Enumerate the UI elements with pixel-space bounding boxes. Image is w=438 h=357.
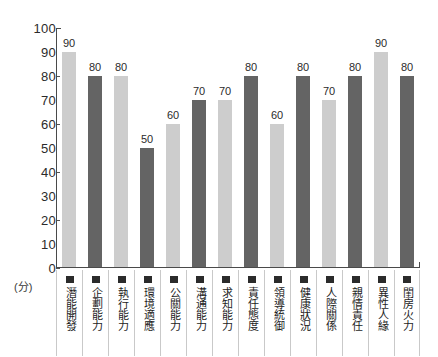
y-tick-label-30: 30 [22,190,56,203]
square-marker-icon [326,276,334,283]
bar-value-label: 70 [219,86,231,97]
bar[interactable] [88,76,102,267]
bar[interactable] [322,100,336,267]
category-label-text: 閨房火力 [401,287,413,331]
square-marker-icon [378,276,386,283]
y-tick-label-40: 40 [22,166,56,179]
category-label: 人際關係 [316,270,342,356]
bar-value-label: 90 [63,38,75,49]
bar-value-label: 80 [297,62,309,73]
category-label-text: 領導統御 [272,287,284,331]
category-label-text: 環境適應 [142,287,154,331]
bar-value-label: 60 [167,110,179,121]
bar[interactable] [140,148,154,268]
bar-value-label: 80 [115,62,127,73]
bar[interactable] [218,100,232,267]
category-label: 求知能力 [212,270,238,356]
bar-value-label: 60 [271,110,283,121]
bar[interactable] [244,76,258,267]
bar-chart: 1009080706050403020100 (分) 9080805060707… [0,0,438,357]
bar[interactable] [348,76,362,267]
category-label-text: 親情責任 [350,287,362,331]
y-tick-label-20: 20 [22,214,56,227]
bar[interactable] [270,124,284,267]
category-label-text: 求知能力 [220,287,232,331]
y-axis-unit-label: (分) [14,278,32,294]
category-label-text: 異性人緣 [376,287,388,331]
square-marker-icon [300,276,308,283]
category-label-text: 公關能力 [168,287,180,331]
bar[interactable] [114,76,128,267]
y-axis: 1009080706050403020100 [14,24,56,272]
square-marker-icon [248,276,256,283]
square-marker-icon [222,276,230,283]
bar-slot: 80 [238,28,264,267]
category-label-text: 企劃能力 [90,287,102,331]
bar-slot: 60 [160,28,186,267]
plot-area: 9080805060707080608070809080 [56,28,420,268]
bar[interactable] [296,76,310,267]
bar-slot: 80 [82,28,108,267]
bar-slot: 70 [212,28,238,267]
category-label: 潛能開發 [56,270,82,356]
square-marker-icon [66,276,74,283]
square-marker-icon [403,276,411,283]
category-label-text: 責任態度 [246,287,258,331]
category-label: 親情責任 [342,270,368,356]
bar[interactable] [400,76,414,267]
y-tick-label-50: 50 [22,142,56,155]
square-marker-icon [92,276,100,283]
bar-value-label: 80 [245,62,257,73]
category-label: 執行能力 [108,270,134,356]
bar-slot: 70 [186,28,212,267]
bar-slot: 70 [316,28,342,267]
y-tick-label-0: 0 [22,262,56,275]
bar-slot: 50 [134,28,160,267]
square-marker-icon [196,276,204,283]
category-label: 公關能力 [160,270,186,356]
bar[interactable] [166,124,180,267]
square-marker-icon [170,276,178,283]
bars-container: 9080805060707080608070809080 [56,28,420,267]
square-marker-icon [118,276,126,283]
y-tick-label-70: 70 [22,94,56,107]
category-label-text: 溝通能力 [194,287,206,331]
category-label-text: 潛能開發 [64,287,76,331]
bar-value-label: 90 [375,38,387,49]
bar-slot: 80 [108,28,134,267]
bar-slot: 90 [368,28,394,267]
category-label: 異性人緣 [368,270,394,356]
bar[interactable] [192,100,206,267]
bar-slot: 90 [56,28,82,267]
category-label-text: 健康狀況 [298,287,310,331]
y-tick-mark-0 [56,268,60,269]
bar-slot: 60 [264,28,290,267]
bar-value-label: 50 [141,134,153,145]
bar-value-label: 80 [89,62,101,73]
category-label: 健康狀況 [290,270,316,356]
y-tick-label-90: 90 [22,46,56,59]
bar[interactable] [374,52,388,267]
y-tick-label-80: 80 [22,70,56,83]
bar-value-label: 80 [401,62,413,73]
category-label-text: 執行能力 [116,287,128,331]
category-labels: 潛能開發企劃能力執行能力環境適應公關能力溝通能力求知能力責任態度領導統御健康狀況… [56,270,420,356]
category-label: 企劃能力 [82,270,108,356]
bar-value-label: 70 [323,86,335,97]
category-label: 環境適應 [134,270,160,356]
category-label: 溝通能力 [186,270,212,356]
bar-value-label: 80 [349,62,361,73]
bar-slot: 80 [394,28,420,267]
y-tick-label-100: 100 [22,22,56,35]
bar-slot: 80 [342,28,368,267]
square-marker-icon [352,276,360,283]
category-label: 領導統御 [264,270,290,356]
square-marker-icon [274,276,282,283]
bar[interactable] [62,52,76,267]
y-tick-label-60: 60 [22,118,56,131]
bar-slot: 80 [290,28,316,267]
category-label: 閨房火力 [394,270,420,356]
category-label: 責任態度 [238,270,264,356]
bar-value-label: 70 [193,86,205,97]
x-axis-line [56,267,420,268]
